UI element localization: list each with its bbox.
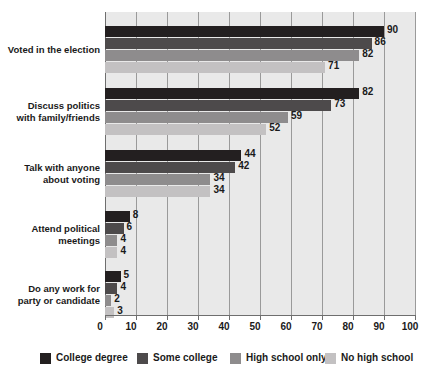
category-label-line: party or candidate bbox=[0, 295, 100, 307]
bar-value-label: 86 bbox=[375, 36, 386, 47]
bar[interactable] bbox=[105, 235, 117, 246]
bar-value-label: 8 bbox=[133, 209, 139, 220]
category-label-line: Talk with anyone bbox=[0, 162, 100, 174]
legend-item[interactable]: College degree bbox=[40, 350, 128, 366]
category-label: Attend politicalmeetings bbox=[0, 223, 100, 247]
bar[interactable] bbox=[105, 174, 210, 185]
bar[interactable] bbox=[105, 26, 384, 37]
category-label: Do any work forparty or candidate bbox=[0, 283, 100, 307]
bar[interactable] bbox=[105, 88, 359, 99]
legend-label: No high school bbox=[341, 352, 413, 364]
bar-group: 44423434 bbox=[105, 150, 415, 198]
category-label-line: Voted in the election bbox=[0, 44, 100, 56]
bar-value-label: 44 bbox=[244, 148, 255, 159]
bar-row: 8 bbox=[105, 211, 415, 222]
category-label-line: Attend political bbox=[0, 223, 100, 235]
legend-swatch-icon bbox=[230, 353, 241, 364]
bar-value-label: 4 bbox=[120, 281, 126, 292]
legend-item[interactable]: No high school bbox=[325, 350, 413, 366]
legend-label: Some college bbox=[153, 352, 217, 364]
x-tick-label-70: 70 bbox=[311, 321, 322, 333]
bar-row: 44 bbox=[105, 150, 415, 161]
x-tick-label-0: 0 bbox=[97, 321, 103, 333]
plot-area: 90868271827359524442343486445423 bbox=[105, 12, 415, 315]
x-tick-label-40: 40 bbox=[218, 321, 229, 333]
x-tick-mark-40 bbox=[229, 315, 230, 320]
category-label-line: meetings bbox=[0, 235, 100, 247]
legend-swatch-icon bbox=[40, 353, 51, 364]
x-tick-label-100: 100 bbox=[402, 321, 419, 333]
x-tick-mark-50 bbox=[260, 315, 261, 320]
legend-swatch-icon bbox=[137, 353, 148, 364]
legend-label: High school only bbox=[246, 352, 327, 364]
bar-value-label: 42 bbox=[238, 160, 249, 171]
legend-swatch-icon bbox=[325, 353, 336, 364]
bar-value-label: 82 bbox=[362, 86, 373, 97]
bar-value-label: 4 bbox=[120, 245, 126, 256]
bar-row: 52 bbox=[105, 124, 415, 135]
bar[interactable] bbox=[105, 124, 266, 135]
bar-row: 4 bbox=[105, 283, 415, 294]
bar-group: 8644 bbox=[105, 211, 415, 259]
bar[interactable] bbox=[105, 150, 241, 161]
gridline-100 bbox=[415, 12, 416, 315]
bar-chart: 90868271827359524442343486445423 Voted i… bbox=[0, 0, 432, 378]
bar-value-label: 90 bbox=[387, 24, 398, 35]
x-tick-mark-10 bbox=[136, 315, 137, 320]
bar-row: 6 bbox=[105, 223, 415, 234]
x-tick-mark-0 bbox=[105, 315, 106, 320]
bar-group: 90868271 bbox=[105, 26, 415, 74]
bar-row: 4 bbox=[105, 247, 415, 258]
category-axis-labels: Voted in the electionDiscuss politicswit… bbox=[0, 12, 100, 315]
bar[interactable] bbox=[105, 295, 111, 306]
bar[interactable] bbox=[105, 112, 288, 123]
category-label: Discuss politicswith family/friends bbox=[0, 100, 100, 124]
legend-item[interactable]: Some college bbox=[137, 350, 217, 366]
category-label: Voted in the election bbox=[0, 44, 100, 56]
x-tick-mark-60 bbox=[291, 315, 292, 320]
bar[interactable] bbox=[105, 247, 117, 258]
bar-row: 71 bbox=[105, 62, 415, 73]
bar-value-label: 6 bbox=[127, 221, 133, 232]
bar[interactable] bbox=[105, 186, 210, 197]
x-tick-mark-70 bbox=[322, 315, 323, 320]
bar-row: 73 bbox=[105, 100, 415, 111]
legend-item[interactable]: High school only bbox=[230, 350, 327, 366]
chart-legend: College degreeSome collegeHigh school on… bbox=[0, 350, 432, 370]
bar[interactable] bbox=[105, 38, 372, 49]
x-tick-label-60: 60 bbox=[280, 321, 291, 333]
bar[interactable] bbox=[105, 62, 325, 73]
category-label-line: about voting bbox=[0, 174, 100, 186]
bar-row: 82 bbox=[105, 50, 415, 61]
bar-row: 42 bbox=[105, 162, 415, 173]
bar[interactable] bbox=[105, 307, 114, 318]
category-label: Talk with anyoneabout voting bbox=[0, 162, 100, 186]
x-tick-mark-100 bbox=[415, 315, 416, 320]
bar-row: 2 bbox=[105, 295, 415, 306]
bar-value-label: 34 bbox=[213, 184, 224, 195]
x-tick-label-90: 90 bbox=[373, 321, 384, 333]
bar-group: 82735952 bbox=[105, 88, 415, 136]
x-tick-mark-20 bbox=[167, 315, 168, 320]
bar-value-label: 59 bbox=[291, 110, 302, 121]
bar[interactable] bbox=[105, 50, 359, 61]
x-tick-label-10: 10 bbox=[125, 321, 136, 333]
x-tick-label-20: 20 bbox=[156, 321, 167, 333]
category-label-line: with family/friends bbox=[0, 112, 100, 124]
bar-value-label: 34 bbox=[213, 172, 224, 183]
bar-row: 34 bbox=[105, 174, 415, 185]
category-label-line: Discuss politics bbox=[0, 100, 100, 112]
legend-label: College degree bbox=[56, 352, 128, 364]
bar-value-label: 2 bbox=[114, 293, 120, 304]
bar-row: 4 bbox=[105, 235, 415, 246]
bar-row: 5 bbox=[105, 271, 415, 282]
bar-row: 34 bbox=[105, 186, 415, 197]
bar-value-label: 82 bbox=[362, 48, 373, 59]
bar-row: 59 bbox=[105, 112, 415, 123]
x-tick-label-80: 80 bbox=[342, 321, 353, 333]
x-tick-label-30: 30 bbox=[187, 321, 198, 333]
x-tick-label-50: 50 bbox=[249, 321, 260, 333]
bar-value-label: 71 bbox=[328, 60, 339, 71]
bar[interactable] bbox=[105, 271, 121, 282]
x-tick-mark-80 bbox=[353, 315, 354, 320]
